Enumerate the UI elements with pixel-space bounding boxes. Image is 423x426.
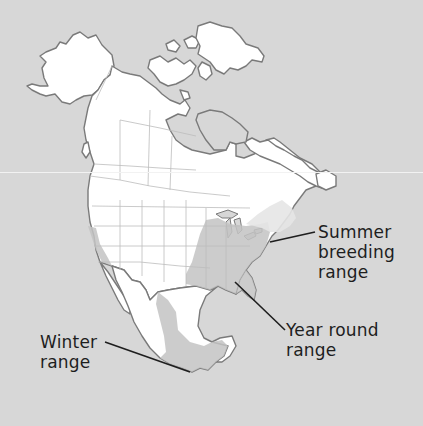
label-line: range <box>286 340 379 360</box>
range-map: Summer breeding range Year round range W… <box>0 0 423 426</box>
scan-artifact-line <box>0 172 423 173</box>
winter-range-label: Winter range <box>40 332 97 372</box>
label-line: Year round <box>286 320 379 340</box>
label-line: Summer <box>318 222 395 242</box>
label-line: range <box>40 352 97 372</box>
label-line: Winter <box>40 332 97 352</box>
label-line: breeding <box>318 242 395 262</box>
year-round-range-label: Year round range <box>286 320 379 360</box>
hudson-bay <box>196 110 248 150</box>
summer-breeding-range-label: Summer breeding range <box>318 222 395 282</box>
label-line: range <box>318 262 395 282</box>
